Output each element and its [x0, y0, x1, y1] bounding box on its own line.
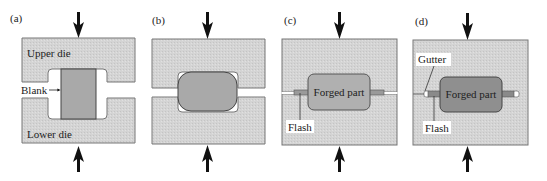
forging-diagram: (a) Upper die Lower die Blank (b): [0, 0, 547, 181]
down-arrow-icon: [202, 12, 213, 39]
panel-c: (c) Forged part Flash: [282, 12, 397, 172]
up-arrow-icon: [73, 146, 84, 172]
up-arrow-icon: [334, 146, 345, 172]
forged-part-label: Forged part: [314, 86, 365, 98]
forged-part-label: Forged part: [446, 88, 497, 100]
panel-a-label: (a): [10, 12, 23, 25]
blank: [61, 69, 96, 119]
blank-label: Blank: [21, 84, 48, 96]
up-arrow-icon: [202, 145, 213, 172]
down-arrow-icon: [334, 12, 345, 39]
down-arrow-icon: [462, 13, 473, 40]
deformed-blank: [178, 72, 237, 111]
upper-die-label: Upper die: [27, 47, 71, 59]
flash-label: Flash: [425, 122, 449, 134]
panel-d-label: (d): [415, 15, 428, 28]
up-arrow-icon: [462, 146, 473, 172]
panel-b: (b): [152, 12, 265, 172]
flash-label: Flash: [288, 121, 312, 133]
gutter-label: Gutter: [418, 53, 446, 65]
panel-a: (a) Upper die Lower die Blank: [10, 12, 135, 172]
lower-die-label: Lower die: [27, 128, 72, 140]
panel-b-label: (b): [152, 14, 165, 27]
panel-c-label: (c): [284, 14, 297, 27]
panel-d: (d) Forged part Gutter Flash: [413, 13, 528, 172]
down-arrow-icon: [73, 12, 84, 38]
